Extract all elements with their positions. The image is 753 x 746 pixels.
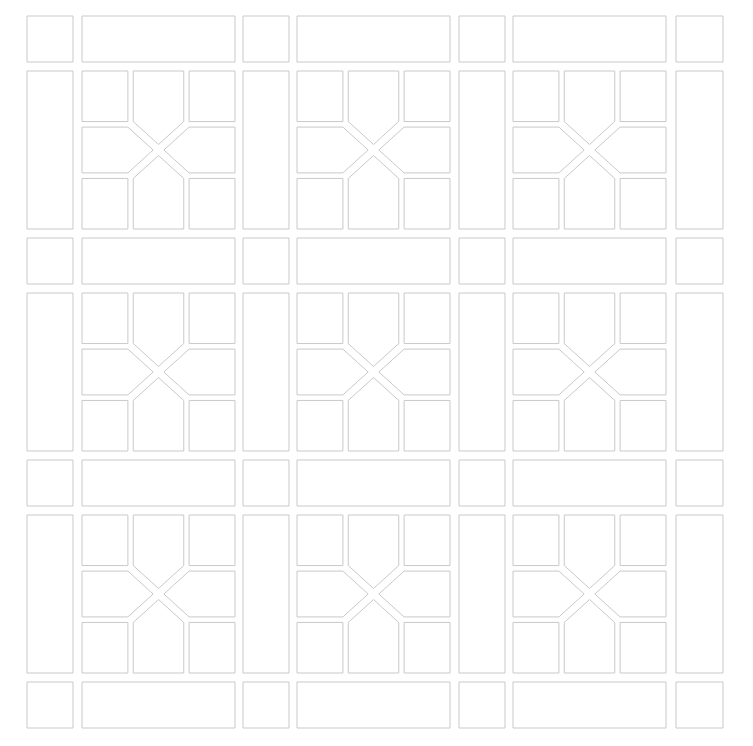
pentagon-right-r5-c1 bbox=[164, 571, 235, 617]
tall-bar-tile-shape-r5-c4 bbox=[459, 515, 505, 673]
pentagon-right-r1-c1 bbox=[164, 127, 235, 173]
wide-bar-tile-shape-r6-c3 bbox=[297, 682, 450, 728]
small-square-tile-shape-r4-c2 bbox=[243, 460, 289, 506]
corner-square-top-left-r5-c3 bbox=[297, 515, 343, 566]
small-square-tile-shape-r2-c0 bbox=[27, 238, 73, 284]
corner-square-top-right-r1-c1 bbox=[189, 71, 235, 122]
wide-bar-tile-r2-c1 bbox=[82, 238, 235, 284]
tall-bar-tile-r1-c2 bbox=[243, 71, 289, 229]
x-cross-motif-r5-c5 bbox=[513, 515, 666, 673]
pentagon-bottom-r5-c5 bbox=[564, 600, 615, 673]
corner-square-top-right-r1-c5 bbox=[620, 71, 666, 122]
tall-bar-tile-shape-r1-c0 bbox=[27, 71, 73, 229]
wide-bar-tile-shape-r0-c1 bbox=[82, 16, 235, 62]
corner-square-bottom-right-r5-c1 bbox=[189, 622, 235, 673]
x-cross-motif-r3-c1 bbox=[82, 293, 235, 451]
x-cross-motif-r5-c3 bbox=[297, 515, 450, 673]
pentagon-bottom-r1-c1 bbox=[133, 156, 184, 229]
corner-square-top-right-r3-c3 bbox=[404, 293, 450, 344]
wide-bar-tile-r0-c5 bbox=[513, 16, 666, 62]
tall-bar-tile-r1-c6 bbox=[676, 71, 723, 229]
small-square-tile-r2-c6 bbox=[676, 238, 723, 284]
wide-bar-tile-r6-c5 bbox=[513, 682, 666, 728]
tall-bar-tile-r1-c0 bbox=[27, 71, 73, 229]
small-square-tile-r6-c0 bbox=[27, 682, 73, 728]
tall-bar-tile-shape-r3-c4 bbox=[459, 293, 505, 451]
wide-bar-tile-shape-r4-c1 bbox=[82, 460, 235, 506]
small-square-tile-shape-r6-c0 bbox=[27, 682, 73, 728]
pentagon-top-r5-c1 bbox=[133, 515, 184, 588]
x-cross-motif-r1-c1 bbox=[82, 71, 235, 229]
pentagon-right-r3-c3 bbox=[379, 349, 450, 395]
small-square-tile-r4-c0 bbox=[27, 460, 73, 506]
pentagon-bottom-r5-c3 bbox=[348, 600, 399, 673]
tall-bar-tile-shape-r1-c4 bbox=[459, 71, 505, 229]
corner-square-bottom-left-r5-c3 bbox=[297, 622, 343, 673]
corner-square-bottom-right-r3-c5 bbox=[620, 400, 666, 451]
small-square-tile-r4-c4 bbox=[459, 460, 505, 506]
tall-bar-tile-shape-r5-c6 bbox=[676, 515, 723, 673]
x-cross-motif-r3-c3 bbox=[297, 293, 450, 451]
pentagon-left-r5-c1 bbox=[82, 571, 153, 617]
tall-bar-tile-shape-r3-c0 bbox=[27, 293, 73, 451]
small-square-tile-r4-c2 bbox=[243, 460, 289, 506]
wide-bar-tile-r0-c1 bbox=[82, 16, 235, 62]
corner-square-bottom-left-r3-c1 bbox=[82, 400, 128, 451]
corner-square-top-right-r3-c5 bbox=[620, 293, 666, 344]
small-square-tile-r6-c4 bbox=[459, 682, 505, 728]
small-square-tile-shape-r0-c2 bbox=[243, 16, 289, 62]
small-square-tile-r4-c6 bbox=[676, 460, 723, 506]
corner-square-top-left-r3-c5 bbox=[513, 293, 559, 344]
small-square-tile-r0-c2 bbox=[243, 16, 289, 62]
small-square-tile-shape-r6-c4 bbox=[459, 682, 505, 728]
pentagon-top-r1-c1 bbox=[133, 71, 184, 144]
corner-square-bottom-right-r1-c5 bbox=[620, 178, 666, 229]
wide-bar-tile-shape-r0-c3 bbox=[297, 16, 450, 62]
corner-square-top-left-r5-c5 bbox=[513, 515, 559, 566]
corner-square-bottom-right-r1-c3 bbox=[404, 178, 450, 229]
pentagon-top-r1-c3 bbox=[348, 71, 399, 144]
wide-bar-tile-shape-r4-c3 bbox=[297, 460, 450, 506]
pentagon-bottom-r3-c5 bbox=[564, 378, 615, 451]
pentagon-right-r1-c5 bbox=[595, 127, 666, 173]
pentagon-bottom-r1-c5 bbox=[564, 156, 615, 229]
lattice-panel-canvas bbox=[0, 0, 753, 746]
tall-bar-tile-shape-r3-c2 bbox=[243, 293, 289, 451]
pentagon-top-r3-c1 bbox=[133, 293, 184, 366]
corner-square-top-left-r3-c1 bbox=[82, 293, 128, 344]
small-square-tile-r0-c0 bbox=[27, 16, 73, 62]
wide-bar-tile-r2-c5 bbox=[513, 238, 666, 284]
corner-square-top-right-r1-c3 bbox=[404, 71, 450, 122]
small-square-tile-r2-c4 bbox=[459, 238, 505, 284]
pentagon-right-r1-c3 bbox=[379, 127, 450, 173]
pentagon-top-r1-c5 bbox=[564, 71, 615, 144]
corner-square-top-left-r3-c3 bbox=[297, 293, 343, 344]
wide-bar-tile-shape-r6-c1 bbox=[82, 682, 235, 728]
wide-bar-tile-r4-c3 bbox=[297, 460, 450, 506]
corner-square-top-left-r5-c1 bbox=[82, 515, 128, 566]
pentagon-right-r3-c5 bbox=[595, 349, 666, 395]
tall-bar-tile-shape-r5-c0 bbox=[27, 515, 73, 673]
corner-square-bottom-right-r1-c1 bbox=[189, 178, 235, 229]
wide-bar-tile-shape-r2-c1 bbox=[82, 238, 235, 284]
pentagon-bottom-r5-c1 bbox=[133, 600, 184, 673]
small-square-tile-shape-r2-c4 bbox=[459, 238, 505, 284]
small-square-tile-r2-c0 bbox=[27, 238, 73, 284]
small-square-tile-shape-r4-c0 bbox=[27, 460, 73, 506]
pentagon-left-r1-c5 bbox=[513, 127, 584, 173]
x-cross-motif-r1-c3 bbox=[297, 71, 450, 229]
wide-bar-tile-shape-r4-c5 bbox=[513, 460, 666, 506]
tall-bar-tile-r3-c0 bbox=[27, 293, 73, 451]
pentagon-top-r5-c5 bbox=[564, 515, 615, 588]
tall-bar-tile-shape-r1-c2 bbox=[243, 71, 289, 229]
small-square-tile-r0-c6 bbox=[676, 16, 723, 62]
wide-bar-tile-shape-r0-c5 bbox=[513, 16, 666, 62]
small-square-tile-shape-r2-c2 bbox=[243, 238, 289, 284]
small-square-tile-shape-r0-c6 bbox=[676, 16, 723, 62]
small-square-tile-shape-r2-c6 bbox=[676, 238, 723, 284]
corner-square-bottom-left-r5-c5 bbox=[513, 622, 559, 673]
tall-bar-tile-r3-c2 bbox=[243, 293, 289, 451]
corner-square-bottom-right-r3-c1 bbox=[189, 400, 235, 451]
small-square-tile-shape-r0-c0 bbox=[27, 16, 73, 62]
corner-square-bottom-left-r3-c3 bbox=[297, 400, 343, 451]
